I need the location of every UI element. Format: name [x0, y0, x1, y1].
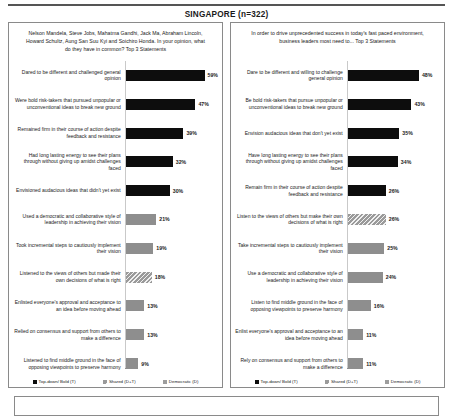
chart-bar-row: Used a democratic and collaborative styl… [13, 205, 218, 234]
bar-value-label: 26% [389, 188, 399, 194]
bar-wrapper: 48% [347, 70, 440, 81]
bar-value-label: 48% [422, 72, 432, 78]
chart-bar-row: Be bold risk-takers that pursue unpopula… [235, 90, 440, 119]
chart-bar-row: Took incremental steps to cautiously imp… [13, 234, 218, 263]
bar-category-label: Had long lasting energy to see their pla… [13, 152, 125, 172]
chart-legend: Top-down/ Bold (T)Shared (D+T)Democratic… [13, 378, 218, 385]
bar-value-label: 25% [387, 245, 397, 251]
bar-value-label: 18% [155, 274, 165, 280]
bar-value-label: 24% [386, 274, 396, 280]
bar [125, 156, 173, 167]
chart-panel-left: Nelson Mandela, Steve Jobs, Mahatma Gand… [8, 22, 223, 388]
chart-bar-row: Were bold risk-takers that pursued unpop… [13, 90, 218, 119]
bar [347, 185, 386, 196]
legend-swatch-icon [325, 380, 329, 384]
bar-value-label: 16% [374, 303, 384, 309]
bar-chart: Dare to be different and willing to chal… [235, 61, 440, 378]
legend-item: Democratic (D) [385, 379, 421, 384]
bar-category-label: Remain firm in their course of action de… [235, 184, 347, 198]
bar-wrapper: 47% [125, 99, 218, 110]
bar [125, 358, 139, 369]
bar-value-label: 32% [176, 159, 186, 165]
chart-bar-row: Had long lasting energy to see their pla… [13, 147, 218, 176]
bar [347, 156, 398, 167]
bar-wrapper: 13% [125, 300, 218, 311]
bar-wrapper: 34% [347, 156, 440, 167]
legend-swatch-icon [163, 380, 167, 384]
legend-label: Shared (D+T) [109, 379, 136, 384]
header-divider-rule [8, 4, 445, 6]
bar [347, 99, 412, 110]
bar-value-label: 11% [366, 361, 376, 367]
bar [125, 185, 170, 196]
bar-wrapper: 43% [347, 99, 440, 110]
chart-bar-row: Enlist everyone's approval and acceptanc… [235, 320, 440, 349]
chart-bar-row: Remain firm in their course of action de… [235, 176, 440, 205]
bar-value-label: 39% [186, 130, 196, 136]
bar-wrapper: 11% [347, 358, 440, 369]
legend-item: Shared (D+T) [325, 379, 358, 384]
bar-wrapper: 59% [125, 70, 218, 81]
chart-bar-row: Enlisted everyone's approval and accepta… [13, 292, 218, 321]
bar-value-label: 13% [147, 303, 157, 309]
bar [347, 272, 383, 283]
bar [125, 214, 157, 225]
bar-category-label: Enlisted everyone's approval and accepta… [13, 299, 125, 313]
bar [125, 99, 196, 110]
legend-swatch-icon [255, 380, 259, 384]
bar-wrapper: 35% [347, 128, 440, 139]
legend-swatch-icon [385, 380, 389, 384]
bar-value-label: 47% [198, 101, 208, 107]
bar-category-label: Listen to find middle ground in the face… [235, 299, 347, 313]
bar-value-label: 11% [366, 332, 376, 338]
bar-category-label: Dared to be different and challenged gen… [13, 69, 125, 83]
page-title: SINGAPORE (n=322) [0, 10, 453, 19]
legend-label: Democratic (D) [169, 379, 199, 384]
chart-axis-line [347, 61, 348, 368]
bar-wrapper: 26% [347, 214, 440, 225]
chart-bar-row: Rely on consensus and support from other… [235, 349, 440, 378]
bar [125, 70, 205, 81]
bar [347, 70, 419, 81]
bar-category-label: Envisioned audacious ideas that didn't y… [13, 187, 125, 194]
bar-category-label: Took incremental steps to cautiously imp… [13, 242, 125, 256]
chart-bar-row: Have long lasting energy to see their pl… [235, 147, 440, 176]
bar-wrapper: 24% [347, 272, 440, 283]
legend-label: Top-down/ Bold (T) [261, 379, 298, 384]
bar [347, 214, 386, 225]
bar-wrapper: 16% [347, 300, 440, 311]
bar-wrapper: 19% [125, 243, 218, 254]
bar [347, 128, 400, 139]
bar-wrapper: 11% [347, 329, 440, 340]
bar-category-label: Rely on consensus and support from other… [235, 357, 347, 371]
bar-wrapper: 26% [347, 185, 440, 196]
chart-bar-row: Listened to find middle ground in the fa… [13, 349, 218, 378]
bar-value-label: 19% [156, 245, 166, 251]
bar-wrapper: 21% [125, 214, 218, 225]
bar-value-label: 30% [173, 188, 183, 194]
chart-bar-row: Envision audacious ideas that don't yet … [235, 119, 440, 148]
chart-bar-row: Dare to be different and willing to chal… [235, 61, 440, 90]
bar-category-label: Used a democratic and collaborative styl… [13, 213, 125, 227]
bar [347, 300, 371, 311]
bar-category-label: Listen to the views of others but make t… [235, 213, 347, 227]
chart-bar-row: Listened to the views of others but made… [13, 263, 218, 292]
bar-value-label: 34% [401, 159, 411, 165]
chart-bar-row: Use a democratic and collaborative style… [235, 263, 440, 292]
legend-item: Top-down/ Bold (T) [33, 379, 76, 384]
bar-wrapper: 13% [125, 329, 218, 340]
chart-bar-row: Remained firm in their course of action … [13, 119, 218, 148]
panel-question: Nelson Mandela, Steve Jobs, Mahatma Gand… [13, 27, 218, 59]
bar-value-label: 9% [141, 361, 149, 367]
bar-category-label: Listened to the views of others but made… [13, 270, 125, 284]
bar [347, 358, 364, 369]
bar-value-label: 13% [147, 332, 157, 338]
bar [125, 243, 154, 254]
bar-category-label: Have long lasting energy to see their pl… [235, 152, 347, 172]
bar-value-label: 59% [208, 72, 218, 78]
bar-wrapper: 9% [125, 358, 218, 369]
chart-bar-row: Take incremental steps to cautiously imp… [235, 234, 440, 263]
bar-wrapper: 30% [125, 185, 218, 196]
legend-swatch-icon [33, 380, 37, 384]
legend-label: Democratic (D) [391, 379, 421, 384]
